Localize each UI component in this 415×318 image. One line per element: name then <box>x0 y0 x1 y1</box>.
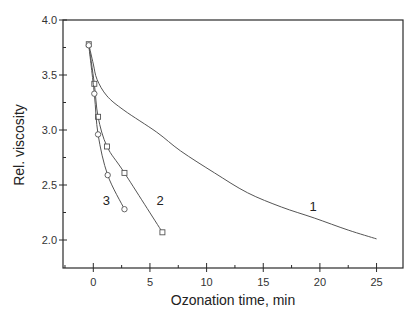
circle-marker <box>95 132 100 137</box>
curve-line <box>89 44 163 232</box>
plot-frame <box>63 20 403 268</box>
data-series: 123 <box>86 42 376 239</box>
y-axis-title: Rel. viscosity <box>11 104 27 186</box>
series-1: 1 <box>89 44 377 239</box>
circle-marker <box>122 207 127 212</box>
series-label: 3 <box>103 193 110 208</box>
x-tick-label: 5 <box>147 276 153 288</box>
chart: 0510152025 2.02.53.03.54.0 123 Ozonation… <box>0 0 415 318</box>
circle-marker <box>86 43 91 48</box>
curve-line <box>89 44 377 239</box>
plot-border <box>63 20 403 268</box>
x-axis-ticks: 0510152025 <box>65 263 383 288</box>
x-tick-label: 20 <box>314 276 326 288</box>
square-marker <box>105 144 110 149</box>
series-2: 2 <box>86 42 165 235</box>
y-tick-label: 3.0 <box>42 124 57 136</box>
x-tick-label: 15 <box>257 276 269 288</box>
circle-marker <box>105 172 110 177</box>
square-marker <box>160 230 165 235</box>
square-marker <box>122 170 127 175</box>
x-axis-title: Ozonation time, min <box>171 292 296 308</box>
y-tick-label: 2.0 <box>42 234 57 246</box>
circle-marker <box>92 91 97 96</box>
y-tick-label: 2.5 <box>42 179 57 191</box>
x-tick-label: 0 <box>90 276 96 288</box>
y-tick-label: 4.0 <box>42 14 57 26</box>
x-tick-label: 10 <box>200 276 212 288</box>
series-label: 2 <box>157 193 164 208</box>
series-label: 1 <box>309 199 316 214</box>
x-tick-label: 25 <box>370 276 382 288</box>
y-tick-label: 3.5 <box>42 69 57 81</box>
